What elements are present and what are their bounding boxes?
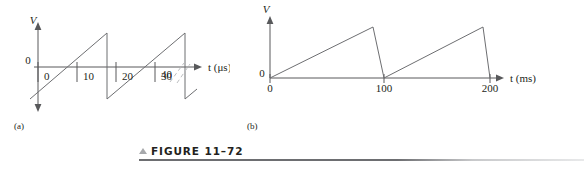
chart-a-ticks <box>38 62 155 82</box>
chart-a-xtick-20: 20 <box>122 70 134 82</box>
chart-b-y-axis-label: V <box>263 3 271 15</box>
chart-b-svg: V 0 0 100 200 t (ms) <box>236 0 536 140</box>
chart-a-y-axis-label: V <box>30 14 38 26</box>
figure-11-72: V 0 0 10 20 30 x t (μs) y <box>0 0 584 170</box>
caption-divider <box>139 159 584 161</box>
chart-a-xtick-40: 40 <box>161 68 172 80</box>
chart-b-y-axis <box>267 16 274 78</box>
chart-a-origin-label: 0 <box>25 54 31 66</box>
chart-a-waveform <box>30 33 197 99</box>
chart-a-break-dashes <box>170 63 190 83</box>
chart-a-xtick-0: 0 <box>44 70 50 82</box>
figure-caption-block: FIGURE 11–72 <box>139 144 584 170</box>
figure-caption-row: FIGURE 11–72 <box>139 144 243 157</box>
chart-panel-b: V 0 0 100 200 t (ms) <box>236 0 536 140</box>
chart-a-xtick-10: 10 <box>83 70 95 82</box>
chart-b-xtick-0: 0 <box>267 82 273 94</box>
x-axis-arrow-icon <box>194 64 202 71</box>
chart-panel-a: V 0 0 10 20 30 x t (μs) y <box>0 0 230 140</box>
chart-a-x-axis <box>34 64 202 71</box>
x-axis-arrow-icon <box>496 75 504 82</box>
chart-b-x-axis <box>270 75 504 82</box>
figure-caption-label: FIGURE 11–72 <box>151 145 243 157</box>
chart-a-x-axis-label: t (μs) <box>208 61 230 74</box>
chart-b-x-axis-label: t (ms) <box>510 72 536 85</box>
triangle-up-icon <box>139 148 147 154</box>
panel-b-caption: (b) <box>247 121 258 131</box>
chart-a-svg: V 0 0 10 20 30 x t (μs) <box>0 0 230 140</box>
chart-b-waveform <box>270 27 490 78</box>
y-axis-arrow-up-icon <box>267 16 274 24</box>
chart-b-xtick-100: 100 <box>376 82 393 94</box>
y-axis-arrow-down-icon <box>35 104 42 112</box>
chart-b-origin-label: 0 <box>259 67 265 79</box>
chart-b-xtick-200: 200 <box>482 82 499 94</box>
panel-a-caption: (a) <box>14 121 24 131</box>
